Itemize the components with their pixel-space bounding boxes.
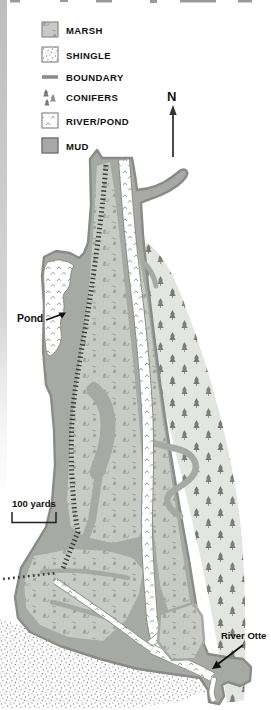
legend-label-boundary: BOUNDARY [66,72,124,83]
mud-swatch [42,138,58,153]
legend-label-marsh: MARSH [66,25,103,36]
river-pond-swatch [42,113,58,128]
legend-item-mud: MUD [42,138,89,153]
north-label: N [167,89,176,104]
legend-label-river-pond: RIVER/POND [66,116,129,127]
marsh-island-southeast [158,603,204,660]
north-arrow: N [167,89,177,157]
legend-item-river-pond: RIVER/POND [42,113,129,128]
legend-label-conifers: CONIFERS [66,92,118,103]
estuary-map: MARSH SHINGLE BOUNDARY CONIFERS RIVER/PO… [0,0,271,710]
river-otte-label: River Otte [221,630,266,641]
scale-label: 100 yards [12,498,56,509]
legend-item-boundary: BOUNDARY [42,72,124,83]
pond-label: Pond [17,312,43,324]
cropped-text-remnants [10,0,252,3]
legend-item-marsh: MARSH [42,22,103,37]
legend: MARSH SHINGLE BOUNDARY CONIFERS RIVER/PO… [42,22,129,153]
shingle-swatch [42,47,58,62]
conifers-swatch [43,89,56,105]
legend-item-shingle: SHINGLE [42,47,111,62]
marsh-swatch [42,22,58,37]
page-edge-strip [0,0,7,710]
legend-item-conifers: CONIFERS [43,89,118,105]
legend-label-shingle: SHINGLE [66,50,111,61]
legend-label-mud: MUD [66,141,89,152]
north-arrowhead [169,105,176,115]
mud-dot [133,648,139,654]
map-page: MARSH SHINGLE BOUNDARY CONIFERS RIVER/PO… [0,0,271,710]
